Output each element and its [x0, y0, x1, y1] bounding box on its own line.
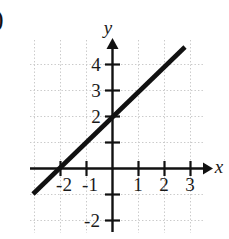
graph-figure: ) y x 4 3 2 -2 -2 -1 1 2 3	[0, 0, 229, 239]
y-tick-label-3: 3	[91, 81, 101, 100]
y-axis-label: y	[104, 18, 112, 37]
x-tick-label-3: 3	[185, 175, 195, 194]
y-tick-label-neg2: -2	[84, 211, 100, 230]
item-label-paren: )	[0, 6, 4, 32]
x-tick-label-1: 1	[133, 175, 143, 194]
x-tick-label-neg1: -1	[82, 175, 98, 194]
coordinate-plane	[0, 0, 229, 239]
y-tick-label-2: 2	[91, 107, 101, 126]
x-tick-label-neg2: -2	[56, 175, 72, 194]
y-tick-label-4: 4	[91, 55, 101, 74]
x-tick-label-2: 2	[159, 175, 169, 194]
line-series	[33, 47, 185, 194]
x-axis-arrowhead	[203, 163, 213, 175]
x-axis-label: x	[215, 157, 223, 176]
y-axis-arrowhead	[107, 38, 119, 49]
